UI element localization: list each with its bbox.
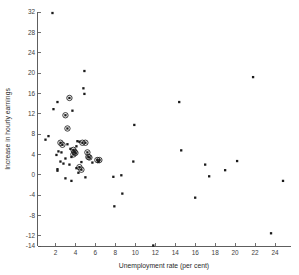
x-tick-label: 20 bbox=[232, 249, 240, 256]
data-point-marker bbox=[75, 145, 77, 147]
data-point-marker bbox=[83, 70, 85, 72]
data-point-marker bbox=[68, 163, 70, 165]
data-point-marker bbox=[64, 114, 66, 116]
y-tick-label: 28 bbox=[28, 29, 36, 36]
data-point-marker bbox=[132, 160, 134, 162]
data-point-marker bbox=[55, 154, 57, 156]
y-tick-label: 4 bbox=[31, 151, 35, 158]
y-tick-label: -8 bbox=[29, 212, 35, 219]
data-point-marker bbox=[252, 76, 254, 78]
data-point-marker bbox=[236, 160, 238, 162]
data-point-marker bbox=[62, 162, 64, 164]
data-point-marker bbox=[77, 172, 79, 174]
y-tick-label: 12 bbox=[28, 110, 36, 117]
y-tick-label: 24 bbox=[28, 49, 36, 56]
y-tick-label: 16 bbox=[28, 90, 36, 97]
data-point-marker bbox=[71, 110, 73, 112]
data-point-marker bbox=[270, 232, 272, 234]
data-point-marker bbox=[112, 176, 114, 178]
data-point-marker bbox=[282, 180, 284, 182]
data-point-marker bbox=[180, 149, 182, 151]
x-tick-label: 2 bbox=[54, 249, 58, 256]
data-point-marker bbox=[113, 205, 115, 207]
x-tick-label: 10 bbox=[132, 249, 140, 256]
data-point-marker bbox=[61, 144, 63, 146]
y-axis-title: Increase in hourly earnings bbox=[4, 88, 12, 170]
y-tick-label: 20 bbox=[28, 69, 36, 76]
data-point-marker bbox=[83, 93, 85, 95]
x-tick-label: 18 bbox=[212, 249, 220, 256]
y-tick-label: -4 bbox=[29, 191, 35, 198]
data-point-marker bbox=[76, 140, 78, 142]
data-point-marker bbox=[208, 175, 210, 177]
x-tick-label: 8 bbox=[114, 249, 118, 256]
data-point-marker bbox=[133, 124, 135, 126]
data-point-marker bbox=[66, 143, 68, 145]
y-tick-label: 32 bbox=[28, 8, 36, 15]
data-point-marker bbox=[204, 163, 206, 165]
x-tick-label: 4 bbox=[74, 249, 78, 256]
data-point-marker bbox=[152, 244, 154, 246]
x-tick-label: 16 bbox=[192, 249, 200, 256]
data-point-marker bbox=[74, 152, 76, 154]
data-point-marker bbox=[178, 101, 180, 103]
data-point-marker bbox=[51, 12, 53, 14]
data-point-marker bbox=[56, 170, 58, 172]
x-axis-title: Unemployment rate (per cent) bbox=[119, 262, 209, 270]
data-point-marker bbox=[80, 161, 82, 163]
data-point-marker bbox=[80, 169, 82, 171]
axis-lines bbox=[38, 12, 292, 247]
data-point-marker bbox=[57, 150, 59, 152]
y-tick-label: -14 bbox=[26, 242, 36, 249]
data-point-marker bbox=[52, 108, 54, 110]
scatter-chart: -14-12-8-4048121620242832 24681012141618… bbox=[0, 0, 299, 275]
data-point-marker bbox=[64, 177, 66, 179]
data-point-marker bbox=[88, 156, 90, 158]
data-point-marker bbox=[86, 151, 88, 153]
x-tick-label: 24 bbox=[271, 249, 279, 256]
y-tick-label: 0 bbox=[31, 171, 35, 178]
y-tick-label: 8 bbox=[31, 130, 35, 137]
data-point-marker bbox=[120, 174, 122, 176]
data-point-marker bbox=[84, 142, 86, 144]
x-tick-label: 6 bbox=[94, 249, 98, 256]
data-point-marker bbox=[66, 127, 68, 129]
data-point-marker bbox=[47, 135, 49, 137]
data-point-marker bbox=[84, 176, 86, 178]
data-point-marker bbox=[60, 151, 62, 153]
x-tick-label: 22 bbox=[252, 249, 260, 256]
x-axis-ticks: 24681012141618202224 bbox=[54, 243, 279, 256]
data-point-marker bbox=[59, 160, 61, 162]
data-points bbox=[44, 12, 284, 247]
chart-page: -14-12-8-4048121620242832 24681012141618… bbox=[0, 0, 299, 275]
data-point-marker bbox=[44, 139, 46, 141]
data-point-marker bbox=[91, 161, 93, 163]
data-point-marker bbox=[98, 159, 100, 161]
data-point-marker bbox=[121, 192, 123, 194]
data-point-marker bbox=[70, 180, 72, 182]
y-axis-ticks: -14-12-8-4048121620242832 bbox=[26, 8, 41, 249]
data-point-marker bbox=[194, 197, 196, 199]
x-tick-label: 12 bbox=[152, 249, 160, 256]
data-point-marker bbox=[56, 101, 58, 103]
data-point-marker bbox=[224, 169, 226, 171]
y-tick-label: -12 bbox=[26, 232, 36, 239]
x-tick-label: 14 bbox=[172, 249, 180, 256]
data-point-marker bbox=[82, 87, 84, 89]
data-point-marker bbox=[68, 97, 70, 99]
data-point-marker bbox=[64, 157, 66, 159]
